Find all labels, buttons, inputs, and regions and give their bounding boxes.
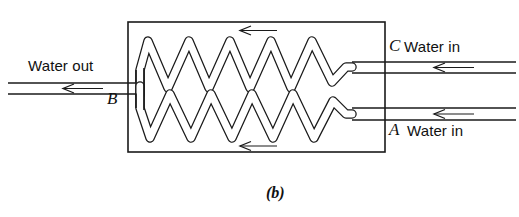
label-point-c: C <box>389 36 400 56</box>
inlet-flow-arrow-c <box>434 63 474 72</box>
figure-caption: (b) <box>266 184 285 202</box>
upper-coil-tube <box>140 41 352 95</box>
lower-coil-tube <box>140 86 352 138</box>
label-water-in-top: Water in <box>404 38 460 55</box>
inlet-flow-arrow-a <box>434 110 474 119</box>
label-water-in-bottom: Water in <box>407 122 463 139</box>
outlet-flow-arrow <box>63 84 103 93</box>
label-point-b: B <box>107 89 117 109</box>
label-water-out: Water out <box>28 57 93 74</box>
shell-flow-arrow-top <box>240 26 277 35</box>
shell-flow-arrow-bottom <box>240 142 277 151</box>
label-point-a: A <box>389 120 399 140</box>
heat-exchanger-diagram <box>0 0 519 217</box>
